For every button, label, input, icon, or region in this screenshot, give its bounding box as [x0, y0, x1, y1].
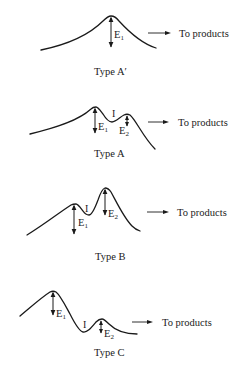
arrow-down-icon	[93, 128, 98, 134]
arrow-right-icon	[147, 320, 153, 324]
to-products-label: To products	[178, 117, 228, 128]
energy-curve-type-a	[30, 107, 155, 149]
arrow-up-icon	[125, 116, 129, 121]
arrow-down-icon	[103, 210, 108, 216]
arrow-right-icon	[163, 120, 169, 124]
intermediate-label: I	[85, 203, 88, 214]
arrow-down-icon	[109, 42, 114, 48]
panel-type-c: E1 I E2 To products Type C	[20, 291, 212, 358]
e1-label: E1	[56, 308, 66, 321]
energy-curve-type-c	[20, 291, 137, 334]
arrow-up-icon	[72, 205, 77, 211]
arrow-right-icon	[163, 210, 169, 214]
e1-label: E1	[98, 121, 108, 134]
arrow-down-icon	[125, 122, 129, 127]
type-label: Type A′	[94, 66, 127, 77]
e2-label: E2	[104, 328, 114, 341]
arrow-right-icon	[165, 31, 171, 35]
arrow-up-icon	[109, 17, 114, 23]
arrow-down-icon	[99, 329, 103, 334]
panel-type-a-prime: E1 To products Type A′	[41, 16, 229, 77]
e1-label: E1	[78, 217, 88, 230]
panel-type-a: E1 I E2 To products Type A	[30, 107, 228, 159]
type-label: Type B	[95, 251, 125, 262]
type-label: Type C	[94, 347, 124, 358]
to-products-label: To products	[162, 317, 212, 328]
energy-curve-type-a-prime	[41, 16, 156, 50]
intermediate-label: I	[112, 108, 115, 119]
arrow-down-icon	[72, 229, 77, 235]
to-products-label: To products	[177, 207, 227, 218]
panel-type-b: E1 I E2 To products Type B	[27, 188, 227, 262]
reaction-energy-profiles-diagram: E1 To products Type A′ E1 I E2 To produc…	[0, 0, 242, 378]
arrow-up-icon	[93, 108, 98, 114]
arrow-up-icon	[99, 321, 103, 326]
e1-label: E1	[114, 29, 124, 42]
to-products-label: To products	[179, 28, 229, 39]
arrow-up-icon	[51, 292, 56, 298]
type-label: Type A	[94, 148, 125, 159]
intermediate-label: I	[83, 319, 86, 330]
arrow-down-icon	[51, 310, 56, 316]
e2-label: E2	[108, 208, 118, 221]
e2-label: E2	[119, 125, 129, 138]
